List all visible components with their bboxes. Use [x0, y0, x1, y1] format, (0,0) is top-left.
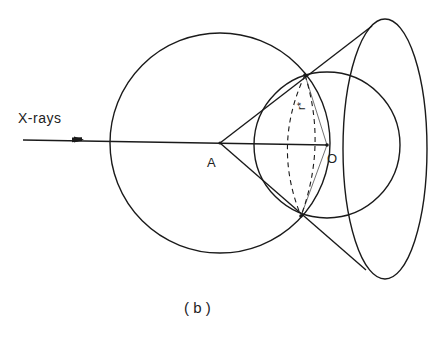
cone-upper-line [220, 26, 372, 143]
intersection-bottom-dot [299, 214, 303, 218]
point-a-label: A [207, 156, 216, 169]
incident-beam-line [23, 140, 327, 145]
figure-caption: ( b ) [184, 300, 211, 315]
intersection-top-dot [303, 73, 307, 77]
ewald-diagram [0, 0, 441, 338]
intersection-circle-back [301, 75, 315, 216]
point-o-dot [325, 143, 329, 147]
point-a-dot [218, 141, 221, 144]
diffraction-cone-base [343, 19, 427, 279]
radius-label: r* [296, 102, 307, 110]
point-o-label: O [327, 152, 337, 165]
intersection-circle-front [287, 75, 305, 216]
x-rays-label: X-rays [18, 111, 61, 125]
